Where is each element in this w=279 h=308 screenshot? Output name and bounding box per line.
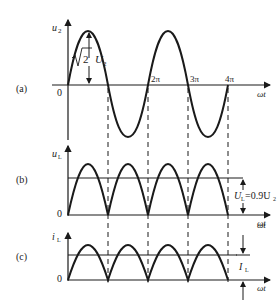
panel-b: U L =0.9U 2 u L 0 (b) ωt: [16, 146, 276, 228]
panel-a-origin: 0: [57, 87, 62, 98]
panel-a-sine-wave: [68, 31, 228, 137]
panel-a-label: (a): [16, 83, 27, 95]
panel-c-origin: 0: [57, 273, 62, 284]
panel-a-x-label: ωt: [257, 89, 266, 99]
panel-b-y-label: u: [52, 148, 57, 159]
panel-b-origin: 0: [57, 208, 62, 219]
panel-a-y-label: u: [52, 22, 57, 33]
panel-a-y-sub: 2: [58, 27, 62, 35]
panel-b-y-sub: L: [58, 154, 62, 160]
panel-c-label: (c): [16, 251, 27, 263]
panel-a: 2 U 2 u 2 0 (a) 2π 3π 4π ωt: [16, 20, 270, 140]
il-var-label: I: [238, 261, 243, 272]
panel-c-y-label: i: [52, 231, 55, 242]
amplitude-sub-label: 2: [103, 60, 107, 68]
ul-eq-label: =0.9U: [245, 190, 271, 201]
panel-b-label: (b): [16, 174, 28, 186]
tick-2pi: 2π: [151, 74, 161, 84]
dashed-guide-lines: [108, 88, 228, 282]
rectifier-waveform-diagram: 2 U 2 u 2 0 (a) 2π 3π 4π ωt U L =0.9U 2 …: [0, 0, 279, 308]
tick-4pi: 4π: [225, 74, 235, 84]
il-sub-label: L: [245, 267, 249, 273]
panel-c: I L i L 0 (c) ωt ωt: [16, 220, 270, 300]
panel-c-x-label: ωt: [257, 283, 266, 293]
amplitude-root-label: 2: [83, 53, 89, 65]
tick-3pi: 3π: [190, 74, 200, 84]
panel-c-top-x-label: ωt: [257, 220, 266, 230]
ul-eq-sub-label: 2: [273, 196, 276, 202]
panel-c-y-sub: L: [57, 237, 61, 243]
